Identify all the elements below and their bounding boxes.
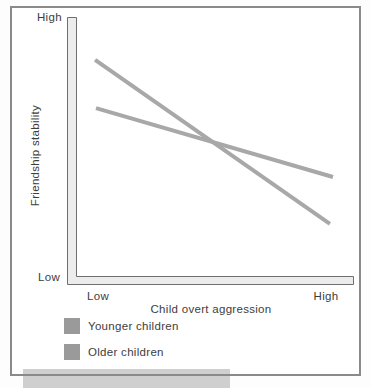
x-axis-tick-high: High [306, 289, 346, 303]
legend-item-younger: Younger children [64, 318, 179, 334]
x-axis-title: Child overt aggression [111, 302, 311, 316]
legend-label-older: Older children [88, 346, 164, 358]
y-axis-tick-high: High [37, 10, 62, 24]
x-axis-tick-low: Low [78, 289, 118, 303]
y-axis-tick-low: Low [38, 270, 60, 284]
axis-bars [68, 18, 354, 285]
legend-item-older: Older children [64, 344, 164, 360]
chart-canvas [0, 0, 371, 388]
figure-page: High Low Friendship stability Low High C… [0, 0, 371, 388]
legend-swatch [64, 318, 80, 334]
y-axis-title: Friendship stability [28, 86, 43, 226]
legend-swatch [64, 344, 80, 360]
legend-label-younger: Younger children [88, 320, 179, 332]
series-line-older-children [96, 108, 333, 177]
